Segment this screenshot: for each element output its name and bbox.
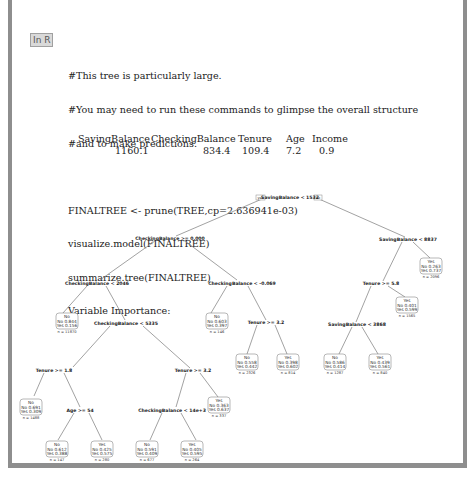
svg-text:Yes 0.561: Yes 0.561 [369, 364, 391, 369]
svg-text:Yes 0.409: Yes 0.409 [136, 451, 158, 456]
leaf-node: Yes No 0.363 Yes 0.637 n = 337 [208, 397, 230, 418]
leaf-node: No No 0.612 Yes 0.388 n = 147 [46, 441, 68, 462]
svg-text:n = 280: n = 280 [95, 458, 110, 462]
svg-text:n = 1488: n = 1488 [23, 416, 40, 420]
leaf-node: No No 0.603 Yes 0.397 n = 146 [206, 313, 228, 334]
leaf-node: Yes No 0.439 Yes 0.561 n = 840 [369, 354, 391, 375]
svg-text:Yes 0.309: Yes 0.309 [20, 409, 42, 414]
svg-text:Yes 0.156: Yes 0.156 [56, 323, 78, 328]
leaf-node: Yes No 0.425 Yes 0.575 n = 280 [91, 441, 113, 462]
svg-text:n = 337: n = 337 [212, 414, 226, 418]
split-node: SavingBalance < 8837 [379, 237, 437, 242]
svg-text:n = 1287: n = 1287 [327, 371, 344, 375]
svg-text:n = 2096: n = 2096 [423, 275, 440, 279]
split-node: CheckingBalance >= 0.000 [135, 236, 204, 241]
svg-text:n = 677: n = 677 [140, 458, 154, 462]
split-node: SavingBalance < 1532 [261, 195, 319, 200]
split-node: CheckingBalance < -0.069 [208, 281, 276, 286]
leaf-node: Yes No 0.398 Yes 0.602 n = 814 [277, 354, 299, 375]
svg-text:Yes 0.599: Yes 0.599 [396, 307, 418, 312]
svg-text:Yes 0.397: Yes 0.397 [206, 323, 228, 328]
decision-tree-diagram: yes no SavingBalance < 1532 CheckingBala… [0, 0, 467, 482]
leaf-node: Yes No 0.263 Yes 0.737 n = 2096 [420, 258, 442, 279]
svg-text:Yes 0.595: Yes 0.595 [181, 451, 203, 456]
leaf-node: No No 0.691 Yes 0.309 n = 1488 [20, 399, 42, 420]
split-node: Age >= 54 [66, 408, 93, 413]
svg-text:Yes 0.388: Yes 0.388 [46, 451, 68, 456]
leaf-node: No No 0.591 Yes 0.409 n = 677 [136, 441, 158, 462]
svg-text:Yes 0.442: Yes 0.442 [236, 364, 258, 369]
split-node: Tenure >= 3.2 [248, 320, 285, 325]
leaf-node: No No 0.586 Yes 0.414 n = 1287 [324, 354, 346, 375]
split-node: Tenure >= 3.2 [175, 368, 212, 373]
svg-text:Yes 0.575: Yes 0.575 [91, 451, 113, 456]
split-node: CheckingBalance < 5335 [94, 321, 158, 326]
svg-text:Yes 0.637: Yes 0.637 [208, 407, 230, 412]
svg-text:n = 147: n = 147 [50, 458, 64, 462]
split-node: SavingBalance < 3868 [328, 322, 386, 327]
svg-text:Yes 0.737: Yes 0.737 [420, 268, 442, 273]
leaf-node: Yes No 0.405 Yes 0.595 n = 264 [181, 441, 203, 462]
svg-text:Yes 0.414: Yes 0.414 [324, 364, 346, 369]
split-node: CheckingBalance < 2046 [65, 281, 129, 286]
svg-text:n = 840: n = 840 [373, 371, 388, 375]
svg-text:n = 814: n = 814 [281, 371, 296, 375]
split-node: Tenure >= 1.8 [36, 368, 73, 373]
split-node: CheckingBalance < 14e+3 [138, 408, 206, 413]
split-node: Tenure >= 5.8 [363, 281, 400, 286]
leaf-node: Yes No 0.401 Yes 0.599 n = 1565 [396, 297, 418, 318]
svg-text:n = 2326: n = 2326 [239, 371, 256, 375]
leaf-node: No No 0.558 Yes 0.442 n = 2326 [236, 354, 258, 375]
svg-text:n = 146: n = 146 [210, 330, 225, 334]
svg-text:Yes 0.602: Yes 0.602 [277, 364, 299, 369]
leaf-node: No No 0.844 Yes 0.156 n = 11870 [56, 313, 78, 334]
svg-text:n = 11870: n = 11870 [57, 330, 77, 334]
svg-text:n = 264: n = 264 [185, 458, 200, 462]
svg-text:n = 1565: n = 1565 [399, 314, 416, 318]
